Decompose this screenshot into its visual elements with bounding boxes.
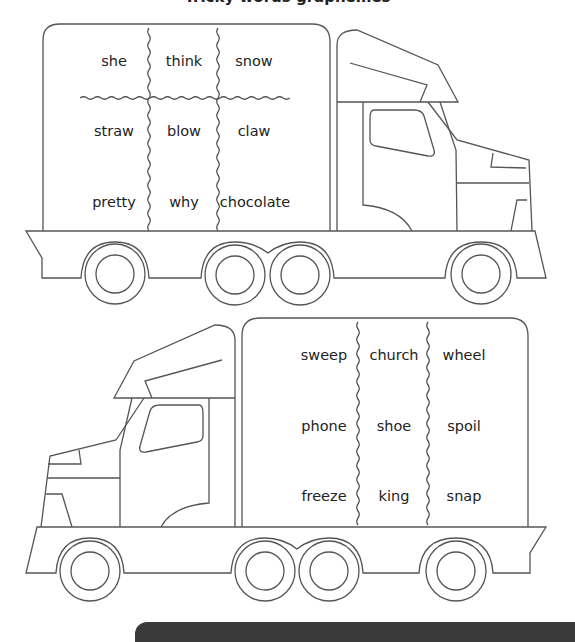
word-cell: think [149,52,219,70]
word-cell: spoil [429,417,499,435]
word-cell: why [149,193,219,211]
truck-2-cab [114,325,235,527]
footer-bar [135,622,575,642]
word-cell: king [359,487,429,505]
word-cell: shoe [359,417,429,435]
word-cell: phone [289,417,359,435]
word-cell: straw [79,122,149,140]
word-cell: snow [219,52,289,70]
word-cell: church [359,346,429,364]
word-cell: wheel [429,346,499,364]
word-cell: freeze [289,487,359,505]
word-cell: chocolate [214,193,296,211]
word-cell: pretty [79,193,149,211]
word-cell: snap [429,487,499,505]
word-cell: she [79,52,149,70]
word-cell: sweep [289,346,359,364]
word-cell: claw [219,122,289,140]
truck-1-cab [337,30,458,231]
word-cell: blow [149,122,219,140]
